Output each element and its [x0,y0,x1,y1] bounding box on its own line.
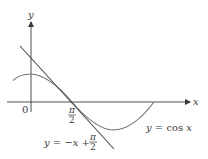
svg-text:2: 2 [69,115,75,125]
x-axis-label: x [193,96,199,107]
cosine-curve-label: y = cos x [145,122,192,133]
pi-over-2-tick-label: π 2 [68,105,76,125]
y-axis-label: y [27,9,34,20]
cosine-tangent-figure: x y 0 π 2 y = cos x y = −x + π 2 [0,0,208,159]
svg-text:π: π [89,132,97,142]
tangent-line [20,46,114,149]
svg-text:π: π [68,105,76,115]
tangent-line-label: y = −x + π 2 [43,132,97,152]
origin-label: 0 [22,104,28,115]
svg-text:2: 2 [90,142,96,152]
svg-text:y = −x +: y = −x + [43,137,90,148]
